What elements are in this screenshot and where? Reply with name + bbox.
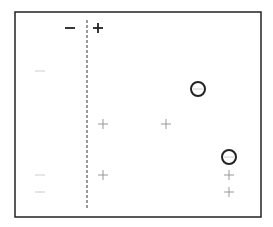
- plus-point-icon: [98, 119, 108, 129]
- minus-point-icon: [191, 82, 205, 96]
- diagram-canvas: [0, 0, 273, 227]
- side-labels: [65, 23, 103, 33]
- plus-point-icon: [224, 187, 234, 197]
- minus-point-icon: [222, 150, 236, 164]
- plus-side-label: [93, 23, 103, 33]
- plot-frame: [15, 12, 261, 217]
- plus-point-icon: [224, 170, 234, 180]
- plus-point-icon: [161, 119, 171, 129]
- data-points: [35, 71, 236, 197]
- plus-point-icon: [98, 170, 108, 180]
